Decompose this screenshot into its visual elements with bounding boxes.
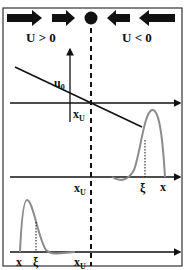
left-arrow-icon: [107, 10, 130, 26]
xu-label: xU: [73, 107, 85, 123]
stagnation-point-dot: [85, 12, 98, 25]
right-arrow-icon: [7, 10, 42, 26]
flow-arrows: [7, 10, 175, 26]
xu-label: xU: [74, 181, 86, 197]
pulse-curve: [20, 200, 75, 254]
right-arrow-icon: [52, 10, 75, 26]
panel-right-pulse: xU ξ x: [10, 110, 180, 197]
label-u-positive: U > 0: [26, 30, 56, 45]
xu-label: xU: [74, 255, 86, 270]
diagram-canvas: U > 0 U < 0 u0 xU xU ξ x x ξ xU: [0, 0, 187, 270]
panel-velocity: u0 xU: [10, 49, 180, 127]
label-u-negative: U < 0: [122, 30, 152, 45]
u0-label: u0: [54, 76, 65, 92]
pulse-curve: [112, 110, 165, 180]
left-arrow-icon: [139, 10, 175, 26]
x-label: x: [16, 255, 22, 269]
x-label: x: [160, 180, 166, 194]
xi-label: ξ: [33, 255, 39, 269]
frame-border: [3, 8, 182, 266]
panel-left-pulse: x ξ xU: [10, 200, 180, 270]
xi-label: ξ: [140, 181, 146, 195]
